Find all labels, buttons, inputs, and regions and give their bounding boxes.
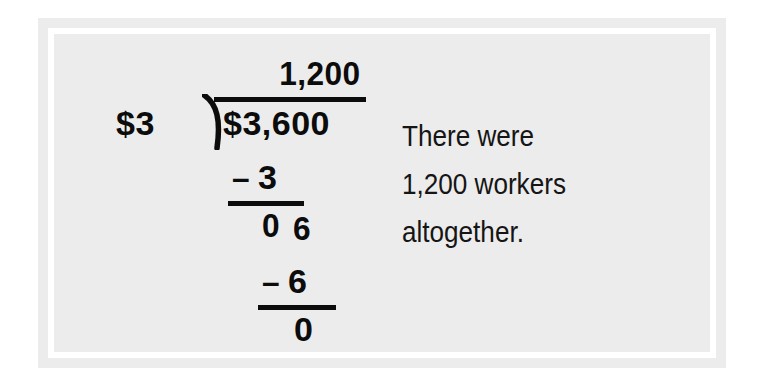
final-remainder-value: 0	[294, 310, 313, 348]
subtraction-step-1: –3	[232, 160, 306, 194]
subtrahend-1: 3	[258, 158, 277, 196]
panel-content: 1,200 $3 $3,600 –3	[54, 34, 710, 352]
dividend: $3,600	[223, 106, 330, 140]
subtraction-step-2: –6	[262, 264, 342, 298]
worked-example-page: 1,200 $3 $3,600 –3	[0, 0, 762, 386]
partial-remainder: 0	[262, 208, 280, 242]
quotient: 1,200	[221, 56, 361, 90]
division-bracket-icon	[202, 94, 224, 150]
divisor: $3	[116, 106, 155, 140]
answer-line-3: altogether.	[402, 208, 663, 256]
partial-remainder-row: 06	[262, 208, 313, 242]
minus-sign-2: –	[262, 264, 286, 298]
long-division-work: 1,200 $3 $3,600 –3	[116, 56, 416, 336]
answer-statement: There were 1,200 workers altogether.	[402, 112, 692, 256]
division-vinculum	[214, 97, 366, 102]
dividend-value: $3,600	[223, 104, 330, 142]
answer-line-1: There were	[402, 112, 663, 160]
final-remainder: 0	[294, 312, 313, 346]
subtrahend-2: 6	[288, 262, 307, 300]
minus-sign-1: –	[232, 160, 256, 194]
example-panel: 1,200 $3 $3,600 –3	[38, 18, 726, 368]
answer-line-2: 1,200 workers	[402, 160, 663, 208]
divisor-value: $3	[116, 104, 155, 142]
brought-down-digit: 6	[293, 211, 311, 245]
quotient-value: 1,200	[280, 56, 361, 90]
